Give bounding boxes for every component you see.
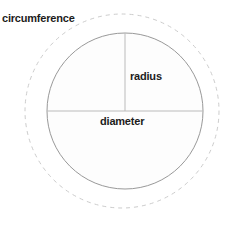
radius-label: radius <box>130 70 162 82</box>
circumference-label: circumference <box>2 12 75 24</box>
circle-diagram-svg <box>0 0 230 226</box>
diameter-label: diameter <box>100 115 144 127</box>
circle-diagram: circumference radius diameter <box>0 0 230 226</box>
